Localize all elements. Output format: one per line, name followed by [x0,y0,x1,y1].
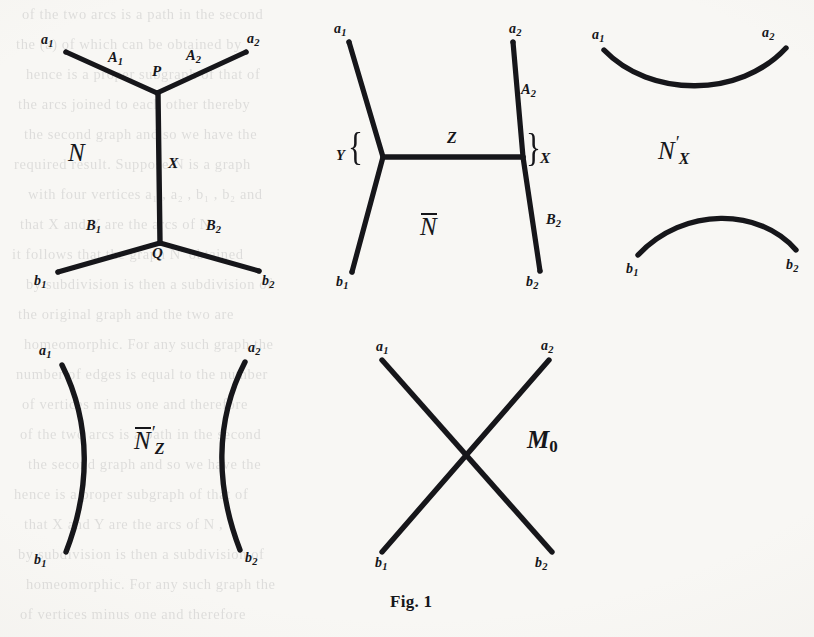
ghost-text-line: it follows that the graph N′ obtained [12,246,244,262]
graph-label-N-prime-X: N′X [658,134,689,167]
ghost-text-line: number of edges is equal to the number [16,366,268,382]
ghost-text-line: by subdivision is then a subdivision of [18,546,265,562]
ghost-text-line: hence is a proper subgraph of that of [26,66,260,82]
point-label-Q: Q [152,246,163,261]
terminal-label-b2: b2 [786,258,798,274]
left-brace-icon: { [348,127,363,167]
figure-caption: Fig. 1 [390,592,432,612]
ghost-text-line: with four vertices a₁ , a₂ , b₁ , b₂ and [28,186,263,202]
edge-label-Z: Z [447,130,457,146]
edge-label-B1: B1 [86,218,101,235]
ghost-text-line: homeomorphic. For any such graph the [24,336,274,352]
graph-N-prime-X-strokes [604,48,796,255]
edge-label-X: X [540,150,550,166]
terminal-label-b2: b2 [245,551,257,567]
graph-M0-strokes [382,360,552,552]
terminal-label-a1: a1 [41,33,53,49]
edge-label-B2: B2 [546,212,561,229]
ghost-text-line: of vertices minus one and therefore [22,396,248,412]
edge-label-X: X [168,155,178,171]
figure-linework [0,0,814,637]
ghost-text-line: the second graph and so we have the [28,456,261,472]
paper-vignette [0,0,814,637]
edge-label-A2: A2 [521,82,536,99]
terminal-label-a2: a2 [247,32,259,48]
ghost-text-line: hence is a proper subgraph of that of [14,486,248,502]
terminal-label-a1: a1 [592,28,604,44]
graph-N-strokes [55,49,261,274]
graph-N-bar-prime-Z-strokes [62,362,245,552]
ghost-text-line: the second graph and so we have the [24,126,257,142]
edge-label-Y: Y [336,148,345,163]
ghost-text-line: of vertices minus one and therefore [20,606,246,622]
figure-1-container: of the two arcs is a path in the second … [0,0,814,637]
graph-N-bar-strokes [346,39,542,274]
terminal-label-a1: a1 [376,340,388,356]
ghost-text-line: that X and Y are the arcs of N , [24,516,223,532]
terminal-label-b1: b1 [34,274,46,290]
ghost-text-line: of the two arcs is a path in the second [22,6,263,22]
terminal-label-a2: a2 [541,339,553,355]
terminal-label-a1: a1 [334,22,346,38]
ghost-text-line: required result. Suppose N is a graph [14,156,251,172]
terminal-label-b2: b2 [535,556,547,572]
terminal-label-a1: a1 [39,344,51,360]
terminal-label-a2: a2 [762,26,774,42]
terminal-label-b2: b2 [262,274,274,290]
terminal-label-b1: b1 [34,553,46,569]
right-brace-icon: } [526,128,541,168]
edge-label-A2: A2 [186,48,201,65]
terminal-label-b1: b1 [336,275,348,291]
ghost-text-line: the arcs joined to each other thereby [18,96,250,112]
terminal-label-a2: a2 [248,341,260,357]
page-bleed-through-text: of the two arcs is a path in the second … [0,0,814,637]
point-label-P: P [152,64,161,79]
ghost-text-line: by subdivision is then a subdivision of [26,276,273,292]
edge-label-A1: A1 [108,50,123,67]
graph-label-N: N [68,140,85,165]
graph-label-N-bar-prime-Z: N′Z [134,424,164,457]
edge-label-B2: B2 [206,218,221,235]
terminal-label-b1: b1 [375,556,387,572]
ghost-text-line: homeomorphic. For any such graph the [26,576,276,592]
terminal-label-b2: b2 [526,275,538,291]
terminal-label-a2: a2 [509,22,521,38]
graph-label-N-bar: N [420,214,437,239]
graph-label-M0: M0 [527,427,558,455]
terminal-label-b1: b1 [626,262,638,278]
ghost-text-line: that X and Y are the arcs of N , [20,216,219,232]
ghost-text-line: the original graph and the two are [18,306,234,322]
